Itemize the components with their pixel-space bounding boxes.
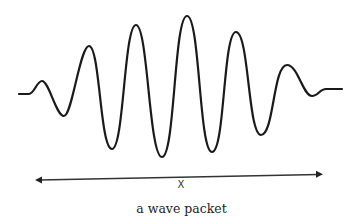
x-axis-label: X (175, 179, 187, 190)
arrowhead-left-icon (35, 177, 42, 184)
figure-caption: a wave packet (0, 201, 363, 216)
arrowhead-right-icon (316, 171, 323, 178)
wave-packet-curve (19, 16, 342, 157)
